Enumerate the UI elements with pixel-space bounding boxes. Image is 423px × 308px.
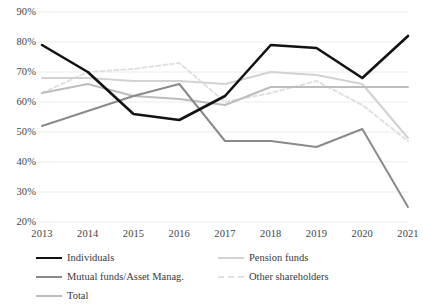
y-axis-tick-label: 40%	[2, 157, 36, 167]
x-axis-tick-label: 2016	[159, 228, 199, 239]
y-axis-tick-label: 20%	[2, 217, 36, 227]
plot-area: 20%30%40%50%60%70%80%90% 201320142015201…	[0, 0, 412, 248]
legend-swatch	[36, 276, 62, 278]
legend-item[interactable]: Mutual funds/Asset Manag.	[36, 270, 184, 284]
x-axis-tick-label: 2019	[297, 228, 337, 239]
x-axis-tick-label: 2020	[342, 228, 382, 239]
gridlines	[38, 12, 408, 222]
x-axis-tick-label: 2013	[22, 228, 62, 239]
y-axis-tick-label: 60%	[2, 97, 36, 107]
x-axis-tick-label: 2018	[251, 228, 291, 239]
series-lines	[42, 36, 408, 207]
x-axis-tick-label: 2014	[68, 228, 108, 239]
chart-legend: IndividualsPension fundsMutual funds/Ass…	[0, 249, 412, 308]
legend-label: Pension funds	[249, 252, 308, 264]
legend-swatch	[36, 295, 62, 297]
legend-swatch	[218, 276, 244, 278]
x-axis-tick-label: 2021	[388, 228, 423, 239]
legend-item[interactable]: Individuals	[36, 251, 114, 265]
x-axis-tick-label: 2017	[205, 228, 245, 239]
y-axis-tick-label: 30%	[2, 187, 36, 197]
legend-label: Mutual funds/Asset Manag.	[67, 271, 184, 283]
legend-swatch	[218, 257, 244, 259]
legend-label: Total	[67, 290, 88, 302]
legend-swatch	[36, 257, 62, 259]
legend-label: Individuals	[67, 252, 114, 264]
y-axis-tick-label: 90%	[2, 7, 36, 17]
y-axis-tick-label: 80%	[2, 37, 36, 47]
legend-label: Other shareholders	[249, 271, 329, 283]
y-axis-tick-label: 50%	[2, 127, 36, 137]
legend-item[interactable]: Pension funds	[218, 251, 308, 265]
y-axis-tick-label: 70%	[2, 67, 36, 77]
x-axis-tick-label: 2015	[114, 228, 154, 239]
plot-svg	[0, 0, 412, 248]
legend-item[interactable]: Total	[36, 289, 88, 303]
legend-item[interactable]: Other shareholders	[218, 270, 329, 284]
